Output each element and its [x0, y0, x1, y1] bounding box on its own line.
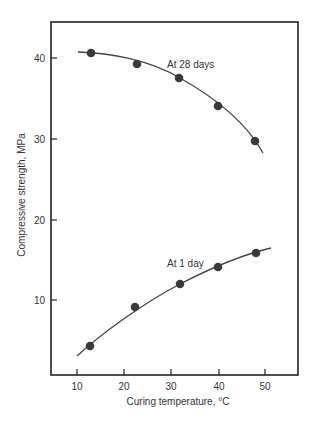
y-tick-label: 30 — [34, 134, 46, 145]
data-point — [87, 49, 96, 58]
data-point — [131, 303, 140, 312]
data-point — [133, 60, 142, 69]
data-point — [176, 280, 185, 289]
x-axis: 10 20 30 40 50 — [71, 369, 271, 392]
y-axis-label: Compressive strength, MPa — [16, 133, 27, 257]
y-tick-label: 40 — [34, 53, 46, 64]
annotation-28-days: At 28 days — [167, 59, 214, 70]
x-axis-label: Curing temperature, °C — [127, 396, 230, 407]
data-point — [214, 263, 223, 272]
annotation-1-day: At 1 day — [167, 258, 204, 269]
data-point — [86, 342, 95, 351]
y-tick-label: 10 — [34, 295, 46, 306]
y-tick-label: 20 — [34, 215, 46, 226]
data-point — [175, 74, 184, 83]
x-tick-label: 40 — [213, 381, 225, 392]
x-tick-label: 20 — [118, 381, 130, 392]
x-tick-label: 30 — [165, 381, 177, 392]
x-tick-label: 10 — [71, 381, 83, 392]
x-tick-label: 50 — [259, 381, 271, 392]
y-axis: 40 30 20 10 — [34, 53, 57, 306]
data-point — [251, 137, 260, 146]
strength-vs-temperature-chart: 40 30 20 10 10 20 30 40 50 Curing temper… — [0, 0, 315, 422]
data-point — [214, 102, 223, 111]
data-point — [252, 249, 261, 258]
